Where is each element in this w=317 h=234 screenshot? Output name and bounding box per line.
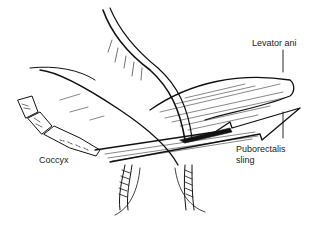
- levator-ani-muscle: [150, 77, 294, 130]
- levator-ani-label: Levator ani: [252, 38, 297, 48]
- rectum-outline: [30, 8, 192, 165]
- anatomy-diagram: Levator ani Coccyx Puborectalis sling: [0, 0, 317, 234]
- pelvic-floor-drawing: [0, 0, 317, 234]
- puborectalis-label-line2: sling: [236, 155, 255, 165]
- coccyx-label: Coccyx: [39, 155, 69, 165]
- coccyx-bone: [18, 96, 100, 156]
- puborectalis-label-line1: Puborectalis: [236, 144, 286, 154]
- twisted-cords: [115, 165, 205, 215]
